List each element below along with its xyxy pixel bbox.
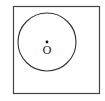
- geometry-diagram: O: [0, 0, 105, 101]
- center-point: [46, 41, 49, 44]
- center-label: O: [42, 44, 51, 57]
- square: [14, 7, 100, 94]
